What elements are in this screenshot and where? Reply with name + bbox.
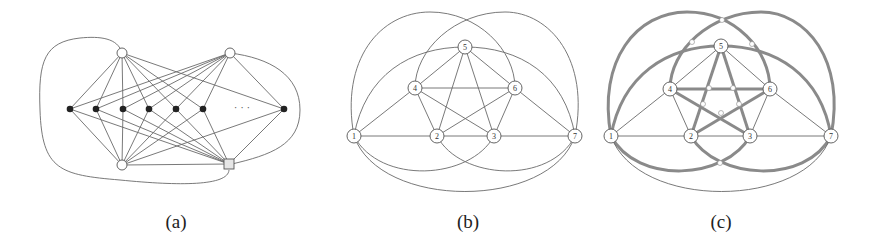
- ellipsis: · · ·: [234, 101, 251, 113]
- outer-arc-left: [351, 12, 515, 136]
- node-b-4: 4: [408, 81, 422, 95]
- top-left-node: [117, 48, 127, 58]
- black-node: [67, 106, 74, 113]
- node-c-6: 6: [763, 82, 777, 96]
- black-node: [93, 106, 100, 113]
- black-node: [200, 106, 207, 113]
- svg-text:2: 2: [689, 132, 693, 141]
- node-c-7: 7: [824, 129, 838, 143]
- node-b-7: 7: [568, 129, 582, 143]
- svg-text:5: 5: [719, 42, 723, 51]
- edges-bottom-square: [70, 109, 284, 164]
- svg-text:7: 7: [573, 132, 577, 141]
- figure-canvas: · · · 1 2 3 4 5: [0, 0, 875, 251]
- top-right-node: [225, 48, 235, 58]
- node-c-5: 5: [714, 39, 728, 53]
- node-b-1: 1: [347, 129, 361, 143]
- caption-b: (b): [457, 211, 479, 233]
- bottom-left-node: [117, 160, 127, 170]
- panel-b-graph: 1 2 3 4 5 6 7: [347, 12, 582, 192]
- node-b-2: 2: [430, 129, 444, 143]
- svg-text:4: 4: [413, 84, 417, 93]
- edges-top-right: [70, 53, 284, 109]
- svg-text:6: 6: [513, 84, 517, 93]
- svg-text:3: 3: [492, 132, 496, 141]
- node-c-4: 4: [663, 82, 677, 96]
- node-b-5: 5: [458, 40, 472, 54]
- svg-text:3: 3: [748, 132, 752, 141]
- node-b-3: 3: [487, 129, 501, 143]
- node-c-3: 3: [743, 129, 757, 143]
- outer-arc-right: [415, 12, 578, 136]
- panel-c-graph: 1 2 3 4 5 6 7: [604, 12, 838, 192]
- square-node: [224, 159, 234, 169]
- black-node: [120, 106, 127, 113]
- node-c-1: 1: [604, 129, 618, 143]
- svg-text:5: 5: [463, 43, 467, 52]
- middle-nodes: [67, 106, 288, 113]
- svg-text:1: 1: [352, 132, 356, 141]
- node-c-2: 2: [684, 129, 698, 143]
- svg-text:4: 4: [668, 85, 672, 94]
- svg-text:7: 7: [829, 132, 833, 141]
- caption-c: (c): [710, 211, 731, 233]
- caption-a: (a): [165, 211, 186, 233]
- black-node: [173, 106, 180, 113]
- black-node: [281, 106, 288, 113]
- svg-text:2: 2: [435, 132, 439, 141]
- black-node: [146, 106, 153, 113]
- svg-text:6: 6: [768, 85, 772, 94]
- panel-a-graph: · · ·: [40, 37, 300, 183]
- node-b-6: 6: [508, 81, 522, 95]
- svg-text:1: 1: [609, 132, 613, 141]
